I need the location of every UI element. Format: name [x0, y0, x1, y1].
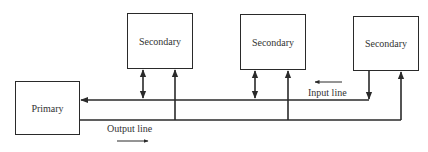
secondary-label: Secondary — [252, 37, 294, 48]
secondary-box-2: Secondary — [240, 14, 306, 70]
input-line-label: Input line — [308, 87, 347, 98]
secondary-label: Secondary — [365, 38, 407, 49]
secondary-label: Secondary — [139, 36, 181, 47]
secondary-box-3: Secondary — [353, 16, 419, 71]
output-line-label: Output line — [107, 123, 152, 134]
secondary-box-1: Secondary — [127, 13, 193, 69]
primary-box: Primary — [15, 81, 80, 135]
primary-label: Primary — [31, 103, 63, 114]
